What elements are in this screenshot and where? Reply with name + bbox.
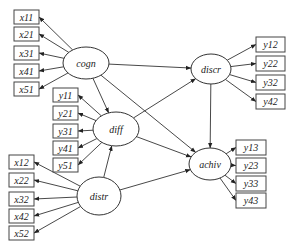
indicator-label: y51 — [57, 160, 72, 171]
path-diff-to-discr — [133, 79, 195, 118]
indicator-label: y21 — [57, 108, 72, 119]
indicator-label: x11 — [19, 12, 34, 23]
latent-label: cogn — [76, 58, 95, 69]
loading-arrow-distr-x42 — [34, 202, 78, 216]
indicator-y51: y51 — [53, 158, 78, 172]
latent-cogn: cogn — [63, 47, 109, 79]
indicator-label: x51 — [18, 84, 33, 95]
loading-arrow-cogn-x41 — [39, 67, 64, 71]
indicator-label: y43 — [243, 195, 258, 206]
indicator-label: y31 — [57, 126, 72, 137]
indicator-x12: x12 — [9, 155, 34, 169]
loading-arrow-cogn-x31 — [39, 53, 64, 58]
indicator-label: y42 — [262, 96, 277, 107]
indicator-y33: y33 — [236, 176, 266, 191]
loading-arrow-discr-y22 — [231, 64, 256, 67]
indicator-x22: x22 — [9, 173, 34, 187]
loading-arrow-diff-y21 — [78, 113, 96, 121]
indicator-x32: x32 — [9, 192, 34, 206]
indicator-label: x12 — [13, 157, 28, 168]
path-discr-to-achiv — [210, 84, 211, 148]
indicator-x11: x11 — [14, 10, 39, 24]
indicator-label: y11 — [58, 90, 73, 101]
latent-diff: diff — [93, 112, 139, 146]
indicator-label: y41 — [57, 143, 72, 154]
latent-distr: distr — [77, 177, 121, 215]
indicator-label: x42 — [13, 211, 28, 222]
indicator-x41: x41 — [14, 64, 39, 78]
indicator-label: y13 — [243, 142, 258, 153]
indicator-label: y22 — [262, 58, 277, 69]
latent-achiv: achiv — [189, 148, 231, 180]
path-distr-to-achiv — [120, 170, 190, 190]
indicator-label: x52 — [13, 228, 28, 239]
loading-arrow-distr-x32 — [34, 197, 77, 199]
loading-arrow-cogn-x11 — [39, 17, 73, 50]
loading-arrow-diff-y11 — [78, 95, 101, 116]
loading-arrow-achiv-y13 — [226, 148, 236, 154]
indicators-layer: x11x21x31x41x51y11y21y31y41y51x12x22x32x… — [9, 10, 285, 240]
loading-arrow-discr-y42 — [225, 79, 256, 101]
indicator-x51: x51 — [14, 82, 39, 96]
indicator-x52: x52 — [9, 226, 34, 240]
indicator-y31: y31 — [53, 124, 78, 138]
indicator-label: y23 — [243, 160, 258, 171]
indicator-y21: y21 — [53, 106, 78, 120]
loading-arrow-cogn-x21 — [39, 34, 69, 52]
indicator-x21: x21 — [14, 27, 39, 41]
latent-label: diff — [109, 124, 124, 135]
indicator-label: y32 — [262, 77, 277, 88]
indicator-label: x32 — [13, 194, 28, 205]
indicator-label: x31 — [18, 48, 33, 59]
indicator-label: y33 — [243, 178, 258, 189]
indicator-y42: y42 — [256, 94, 285, 109]
loading-arrow-cogn-x51 — [39, 73, 68, 89]
latent-label: achiv — [199, 159, 221, 170]
loading-arrow-distr-x52 — [34, 206, 81, 233]
indicator-y12: y12 — [256, 37, 285, 52]
indicator-y41: y41 — [53, 141, 78, 155]
indicator-x42: x42 — [9, 209, 34, 223]
indicator-label: x41 — [18, 66, 33, 77]
loading-arrow-diff-y31 — [78, 130, 93, 131]
loading-arrow-achiv-y33 — [225, 175, 236, 183]
loading-arrow-discr-y12 — [227, 45, 256, 61]
latent-discr: discr — [191, 54, 231, 84]
indicator-y32: y32 — [256, 75, 285, 90]
indicator-label: x21 — [18, 29, 33, 40]
indicator-y23: y23 — [236, 158, 266, 173]
indicator-x31: x31 — [14, 46, 39, 60]
indicator-label: x22 — [13, 175, 28, 186]
latent-variables-layer: cogndiffdistrdiscrachiv — [63, 47, 231, 215]
sem-diagram: x11x21x31x41x51y11y21y31y41y51x12x22x32x… — [0, 0, 292, 251]
indicator-y11: y11 — [53, 88, 78, 102]
loading-arrow-discr-y32 — [230, 75, 256, 83]
path-cogn-to-diff — [93, 78, 109, 113]
indicator-y22: y22 — [256, 56, 285, 71]
latent-label: discr — [201, 64, 221, 75]
indicator-y43: y43 — [236, 193, 266, 208]
path-distr-to-diff — [104, 146, 112, 178]
path-cogn-to-discr — [109, 64, 191, 68]
loading-arrow-diff-y41 — [78, 139, 97, 148]
latent-label: distr — [90, 191, 108, 202]
indicator-y13: y13 — [236, 140, 266, 155]
path-diff-to-achiv — [137, 137, 192, 157]
indicator-label: y12 — [262, 39, 277, 50]
